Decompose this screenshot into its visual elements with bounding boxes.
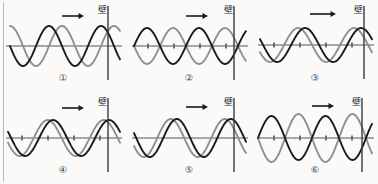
direction-of-travel-arrow-head [79, 13, 85, 19]
wall-label-3: 壁 [354, 6, 363, 15]
wall-label-4: 壁 [98, 98, 107, 107]
answer-choice-grid: 壁 ① 壁 ② 壁 ③ 壁 ④ 壁 ⑤ 壁 ⑥ [0, 0, 378, 184]
panel-number-4: ④ [0, 164, 126, 175]
direction-of-travel-arrow-head [203, 13, 209, 19]
panel-number-3: ③ [252, 72, 378, 83]
panel-number-1: ① [0, 72, 126, 83]
panel-number-2: ② [126, 72, 252, 83]
wall-label-5: 壁 [224, 98, 233, 107]
wall-label-6: 壁 [352, 98, 361, 107]
wall-label-1: 壁 [98, 6, 107, 15]
answer-panel-2[interactable]: 壁 ② [126, 0, 252, 92]
direction-of-travel-arrow-head [329, 103, 335, 109]
wall-label-2: 壁 [224, 6, 233, 15]
answer-panel-6[interactable]: 壁 ⑥ [252, 92, 378, 184]
answer-panel-3[interactable]: 壁 ③ [252, 0, 378, 92]
direction-of-travel-arrow-head [203, 104, 209, 110]
answer-panel-4[interactable]: 壁 ④ [0, 92, 126, 184]
panel-number-6: ⑥ [252, 164, 378, 175]
panel-number-5: ⑤ [126, 164, 252, 175]
answer-panel-1[interactable]: 壁 ① [0, 0, 126, 92]
direction-of-travel-arrow-head [79, 105, 85, 111]
answer-panel-5[interactable]: 壁 ⑤ [126, 92, 252, 184]
direction-of-travel-arrow-head [331, 11, 337, 17]
